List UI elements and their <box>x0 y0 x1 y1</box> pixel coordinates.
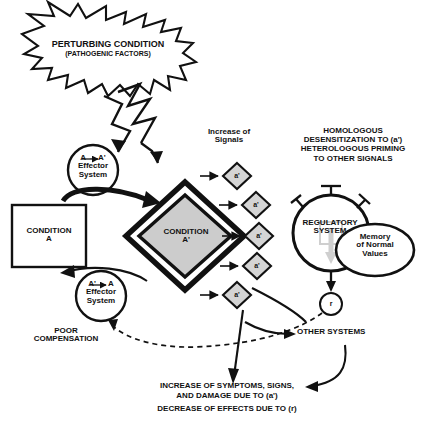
pathogenic-factors-line: (PATHOGENIC FACTORS) <box>34 50 182 57</box>
effector-top-label: A → A' Effector System <box>70 154 116 179</box>
condition-a-prime-line2: A' <box>150 236 222 244</box>
perturbing-condition-label: PERTURBING CONDITION (PATHOGENIC FACTORS… <box>34 40 182 58</box>
increase-of-signals-label: Increase of Signals <box>198 128 260 145</box>
lightning-arrow <box>104 84 163 163</box>
condition-a-label: CONDITION A <box>13 227 85 244</box>
effector-top-line3: System <box>70 171 116 179</box>
curve-signals-to-regulatory <box>252 288 306 322</box>
dashed-feedback-path <box>108 313 322 347</box>
signal-node-label-4: a' <box>249 262 265 269</box>
arrow-regulatory-to-r <box>320 271 342 315</box>
outcome-line2: AND DAMAGE DUE TO (a') <box>112 391 342 401</box>
signal-node-label-2: a' <box>248 201 264 208</box>
poor-compensation-label: POOR COMPENSATION <box>18 327 114 344</box>
condition-a-prime-label: CONDITION A' <box>150 228 222 245</box>
desensitization-line3: HETEROLOGOUS PRIMING <box>272 144 434 153</box>
outcome-line1: INCREASE OF SYMPTOMS, SIGNS, <box>112 381 342 391</box>
memory-line3: Values <box>345 250 405 258</box>
signal-node-label-5: a' <box>229 291 245 298</box>
memory-label: Memory of Normal Values <box>345 233 405 258</box>
desensitization-line2: DESENSITIZATION TO (a') <box>272 135 434 144</box>
effector-bottom-label: A' → A Effector System <box>78 280 124 305</box>
perturbing-condition-line1: PERTURBING CONDITION <box>34 40 182 49</box>
other-systems-label: OTHER SYSTEMS <box>297 328 393 336</box>
outcome-label: INCREASE OF SYMPTOMS, SIGNS, AND DAMAGE … <box>112 381 342 414</box>
receptor-icon-left <box>291 195 303 207</box>
desensitization-label: HOMOLOGOUS DESENSITIZATION TO (a') HETER… <box>272 126 434 163</box>
signal-node-label-1: a' <box>229 172 245 179</box>
receptor-output-label: r <box>323 300 339 307</box>
diagram-graphics <box>0 0 434 427</box>
condition-a-line2: A <box>13 235 85 243</box>
arrow-signals-to-outcome <box>228 310 243 384</box>
poor-compensation-line2: COMPENSATION <box>18 335 114 343</box>
desensitization-line4: TO OTHER SIGNALS <box>272 154 434 163</box>
effector-bottom-line3: System <box>78 297 124 305</box>
receptor-icon-right <box>357 194 370 208</box>
increase-of-signals-line2: Signals <box>198 136 260 144</box>
diagram-canvas: PERTURBING CONDITION (PATHOGENIC FACTORS… <box>0 0 434 427</box>
signal-node-label-3: a' <box>251 232 267 239</box>
desensitization-line1: HOMOLOGOUS <box>272 126 434 135</box>
outcome-line3: DECREASE OF EFFECTS DUE TO (r) <box>112 404 342 414</box>
